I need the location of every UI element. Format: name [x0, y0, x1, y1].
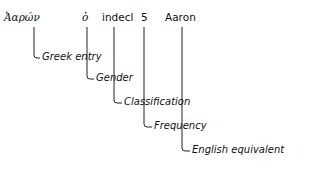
- label-english-equivalent: English equivalent: [192, 144, 284, 156]
- label-classification: Classification: [124, 96, 190, 108]
- label-greek-entry: Greek entry: [42, 51, 102, 63]
- label-frequency: Frequency: [154, 120, 207, 132]
- label-gender: Gender: [96, 72, 133, 84]
